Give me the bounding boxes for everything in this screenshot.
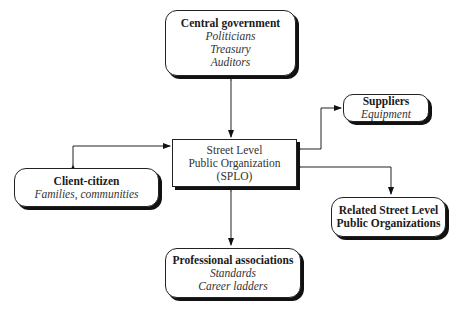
client-citizen-title: Client-citizen bbox=[54, 175, 120, 188]
node-splo-center: Street Level Public Organization (SPLO) bbox=[172, 139, 297, 187]
professional-associations-title: Professional associations bbox=[173, 254, 294, 267]
edge-suppliers bbox=[300, 108, 341, 149]
professional-associations-item: Standards bbox=[210, 267, 256, 280]
node-professional-associations: Professional associations Standards Care… bbox=[165, 248, 301, 298]
client-citizen-item: Families, communities bbox=[34, 188, 138, 201]
central-government-item: Auditors bbox=[211, 56, 251, 69]
central-government-item: Politicians bbox=[206, 30, 256, 43]
central-government-item: Treasury bbox=[210, 43, 250, 56]
suppliers-item: Equipment bbox=[361, 108, 411, 121]
splo-line: (SPLO) bbox=[217, 170, 253, 183]
edge-client-citizen bbox=[73, 146, 170, 165]
splo-line: Public Organization bbox=[188, 157, 280, 170]
edge-related-orgs bbox=[300, 167, 391, 194]
splo-line: Street Level bbox=[207, 144, 263, 157]
node-central-government: Central government Politicians Treasury … bbox=[165, 10, 296, 76]
professional-associations-item: Career ladders bbox=[198, 280, 268, 293]
suppliers-title: Suppliers bbox=[363, 95, 410, 108]
related-orgs-title-line: Related Street Level bbox=[339, 204, 438, 217]
node-client-citizen: Client-citizen Families, communities bbox=[14, 168, 159, 207]
central-government-title: Central government bbox=[181, 17, 280, 30]
related-orgs-title-line: Public Organizations bbox=[337, 217, 441, 230]
node-suppliers: Suppliers Equipment bbox=[343, 94, 429, 122]
node-related-orgs: Related Street Level Public Organization… bbox=[331, 197, 446, 237]
